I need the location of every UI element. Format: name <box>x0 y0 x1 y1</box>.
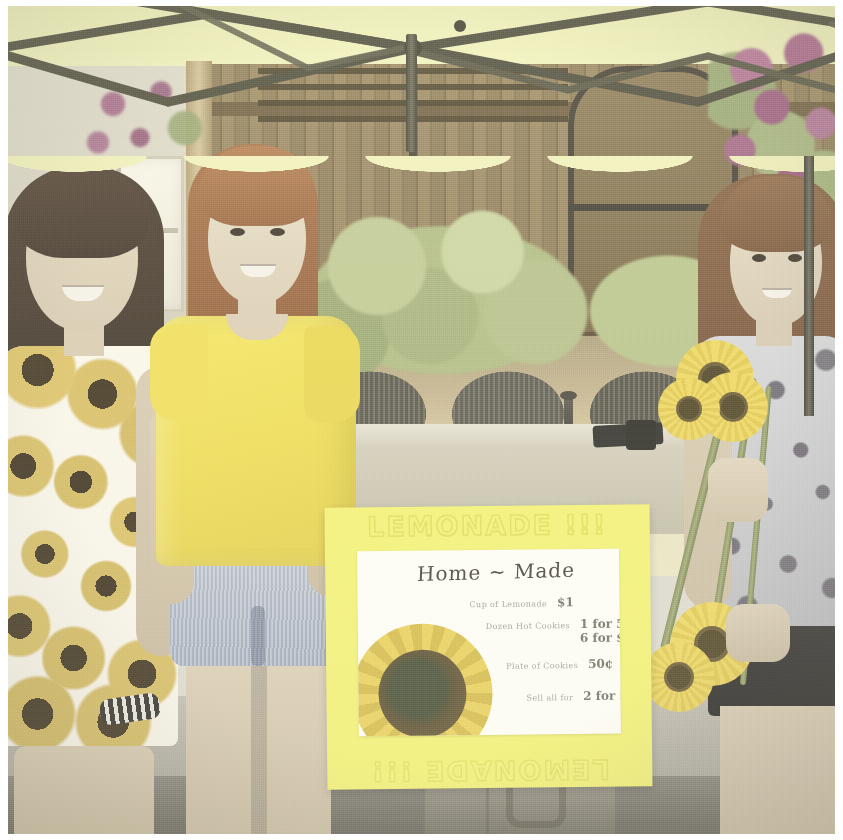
menu-item-1-label: Cup of Lemonade <box>470 599 548 609</box>
girl-center-eye-left <box>230 228 245 236</box>
menu-item-2-price: 1 for 50¢ <box>580 616 621 631</box>
sunflower-center-low-2 <box>664 662 694 692</box>
sunflower-center-3 <box>676 396 702 422</box>
menu-row-3: Plate of Cookies 50¢ <box>506 657 613 672</box>
sign-header-text: LEMONADE !!! <box>325 508 650 542</box>
girl-center-leg-gap <box>251 661 267 834</box>
girl-right-hand-upper <box>708 458 768 522</box>
menu-row-4: Sell all for 2 for $1 <box>526 688 620 703</box>
menu-row-2b: 6 for $1 <box>570 630 621 645</box>
canopy-scalloped-edge <box>8 156 835 196</box>
girl-center-sleeve-left <box>150 324 208 420</box>
canopy-joint <box>454 20 466 32</box>
menu-item-4-label: Plate of Cookies <box>506 661 578 671</box>
menu-row-1: Cup of Lemonade $1 <box>469 595 573 610</box>
photo-frame: LEMONADE !!! Home ~ Made Cup of Lemonade… <box>0 0 843 840</box>
menu-item-1-price: $1 <box>557 595 574 609</box>
canopy-leg-right <box>804 156 814 416</box>
menu-item-5-label: Sell all for <box>526 693 573 702</box>
girl-right-hand-lower <box>726 604 790 662</box>
girl-left-smile <box>62 285 104 301</box>
sign-title-home-made: Home ~ Made <box>417 558 576 586</box>
girl-center-shorts-gap <box>251 606 265 666</box>
sign-sunflower-center <box>378 649 467 736</box>
menu-item-4-price: 50¢ <box>588 657 613 671</box>
sunflower-center-2 <box>718 392 748 422</box>
girl-center-sleeve-right <box>304 326 360 422</box>
canopy-center-pole <box>406 34 417 152</box>
menu-row-2: Dozen Hot Cookies 1 for 50¢ <box>486 616 621 632</box>
sign-footer-text: LEMONADE !!! <box>327 753 652 787</box>
menu-item-2-label: Dozen Hot Cookies <box>486 621 570 631</box>
lemonade-poster-sign[interactable]: LEMONADE !!! Home ~ Made Cup of Lemonade… <box>325 504 653 789</box>
menu-item-5-price: 2 for $1 <box>583 688 621 703</box>
lemonade-stand-photo: LEMONADE !!! Home ~ Made Cup of Lemonade… <box>8 6 835 834</box>
sign-white-paper: Home ~ Made Cup of Lemonade $1 Dozen Hot… <box>357 549 621 737</box>
girl-center-smile <box>240 264 276 277</box>
sign-sunflower-artwork <box>357 623 493 736</box>
menu-item-3-price: 6 for $1 <box>580 630 621 645</box>
girl-left-legs <box>14 746 154 834</box>
girl-center-eye-right <box>270 228 285 236</box>
